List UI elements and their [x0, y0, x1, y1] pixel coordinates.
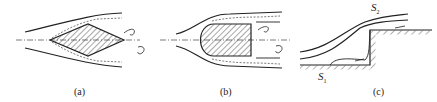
recirculation-line	[330, 30, 370, 65]
panel-a	[16, 13, 144, 67]
streamline-inner	[300, 20, 408, 59]
label-s2: S2	[371, 1, 380, 15]
vortex-lower-icon	[138, 47, 144, 54]
blunt-body	[201, 24, 252, 56]
caption-a: (a)	[74, 86, 85, 97]
upper-floor-hatch	[376, 31, 432, 35]
caption-c: (c)	[373, 86, 384, 97]
panel-c	[300, 14, 432, 70]
boundary-layer-lower	[212, 59, 280, 64]
boundary-layer-upper	[212, 16, 280, 21]
caption-b: (b)	[220, 86, 232, 97]
vortex-lower-icon	[276, 46, 282, 53]
step-face-hatch	[371, 31, 376, 70]
streamline-upper	[25, 13, 122, 32]
vortex-upper-icon	[124, 29, 134, 35]
vortex-upper-icon	[258, 27, 268, 32]
streamline-lower	[25, 48, 122, 67]
label-s1: S1	[318, 70, 327, 84]
panel-b	[160, 12, 290, 68]
step-wall	[300, 30, 432, 65]
flow-separation-diagram	[0, 0, 437, 102]
floor-hatch	[300, 66, 370, 70]
reverse-flow-arrow-top-icon	[395, 26, 405, 28]
diamond-body	[50, 24, 124, 56]
